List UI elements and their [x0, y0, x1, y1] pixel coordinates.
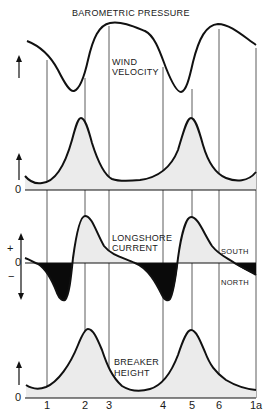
wind-zero-label: 0 [15, 183, 21, 195]
breaker-label-line1: BREAKER [114, 357, 159, 368]
x-tick-2: 2 [82, 399, 88, 411]
x-tick-6: 6 [216, 399, 222, 411]
barometric-arrow-icon [16, 55, 22, 78]
x-tick-5: 5 [189, 399, 195, 411]
longshore-label-line2: CURRENT [112, 243, 158, 254]
north-label: NORTH [221, 277, 249, 288]
longshore-minus-label: − [8, 270, 14, 282]
x-tick-1: 1 [44, 399, 50, 411]
wind-arrow-icon [16, 153, 22, 180]
x-tick-4: 4 [160, 399, 166, 411]
breaker-zero-label: 0 [15, 391, 21, 403]
breaker-label-line2: HEIGHT [114, 368, 150, 379]
south-label: SOUTH [221, 246, 249, 257]
longshore-zero-label: 0 [15, 256, 21, 268]
wind-label-line2: VELOCITY [112, 67, 159, 78]
chart-title: BAROMETRIC PRESSURE [72, 8, 190, 19]
breaker-arrow-icon [16, 361, 22, 385]
longshore-plus-label: + [7, 242, 13, 254]
barometric-pressure-curve [27, 23, 256, 92]
x-tick-1a: 1a [250, 399, 262, 411]
x-tick-3: 3 [106, 399, 112, 411]
